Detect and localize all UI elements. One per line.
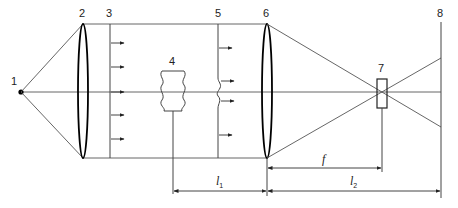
label-5: 5	[215, 7, 221, 19]
ray-converge-top	[267, 24, 441, 127]
label-6: 6	[263, 7, 269, 19]
label-7: 7	[378, 62, 384, 74]
optical-diagram: 1 2 3 4 5 6 7 8 f	[0, 0, 458, 208]
wavefront-3-arrows	[111, 43, 124, 139]
label-8: 8	[437, 7, 443, 19]
label-f: f	[322, 152, 327, 166]
label-1: 1	[11, 75, 17, 87]
label-2: 2	[79, 7, 85, 19]
ray-diverge-top	[21, 24, 83, 92]
label-l2: l2	[350, 174, 357, 189]
wavefront-5-arrows	[219, 48, 234, 135]
lens-2	[78, 24, 88, 158]
label-4: 4	[169, 55, 175, 67]
label-l1: l1	[216, 174, 223, 189]
ray-diverge-bottom	[21, 92, 83, 158]
distorted-wavefront-5	[217, 24, 220, 158]
lens-6	[262, 24, 272, 158]
ray-converge-bottom	[267, 58, 441, 158]
label-3: 3	[106, 7, 112, 19]
object-4	[161, 71, 185, 194]
